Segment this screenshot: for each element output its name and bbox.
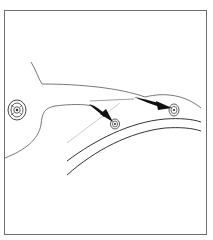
inner-line-1 bbox=[90, 99, 134, 101]
arrow-icon bbox=[134, 97, 172, 110]
grommet-icon bbox=[8, 100, 26, 120]
panel-lower-contour bbox=[5, 105, 92, 159]
clip-icon bbox=[169, 104, 179, 116]
rail-outer bbox=[67, 119, 201, 161]
illustration bbox=[0, 0, 213, 240]
panel-upper-edge bbox=[31, 62, 201, 108]
inner-line-2 bbox=[67, 103, 120, 143]
rail-inner bbox=[67, 128, 201, 175]
arrow-icon bbox=[89, 104, 113, 122]
clip-icon bbox=[111, 119, 120, 129]
